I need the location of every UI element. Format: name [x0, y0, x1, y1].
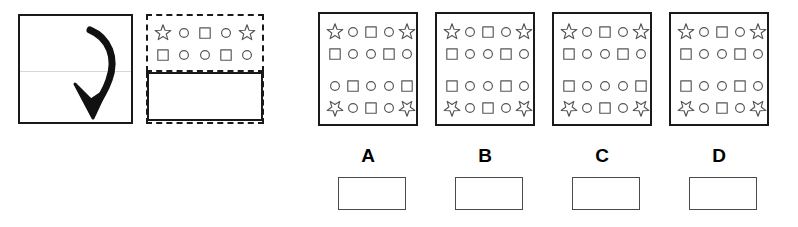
- shape-row: [677, 98, 761, 118]
- circle-icon: [362, 44, 380, 64]
- circle-icon: [175, 23, 193, 43]
- folded-sheet-panel: [146, 14, 264, 124]
- circle-icon: [344, 22, 362, 42]
- shape-row: [560, 22, 644, 42]
- circle-icon: [749, 44, 767, 64]
- square-icon: [713, 22, 731, 42]
- square-icon: [479, 22, 497, 42]
- circle-icon: [461, 22, 479, 42]
- circle-icon: [461, 76, 479, 96]
- star-inverted-icon: [443, 98, 461, 118]
- square-icon: [731, 76, 749, 96]
- circle-icon: [380, 76, 398, 96]
- option-d[interactable]: [669, 12, 769, 126]
- option-b[interactable]: [435, 12, 535, 126]
- star-inverted-icon: [515, 98, 533, 118]
- circle-icon: [713, 76, 731, 96]
- shape-row: [677, 22, 761, 42]
- square-icon: [497, 44, 515, 64]
- square-icon: [632, 76, 650, 96]
- circle-icon: [344, 44, 362, 64]
- circle-icon: [578, 76, 596, 96]
- star-icon: [749, 22, 767, 42]
- shape-row: [326, 76, 410, 96]
- circle-icon: [479, 76, 497, 96]
- fold-crease-line: [20, 71, 131, 72]
- circle-icon: [731, 22, 749, 42]
- star-icon: [154, 23, 172, 43]
- square-icon: [344, 76, 362, 96]
- circle-icon: [695, 76, 713, 96]
- circle-icon: [614, 98, 632, 118]
- star-inverted-icon: [677, 98, 695, 118]
- option-label-a: A: [318, 146, 418, 165]
- circle-icon: [362, 76, 380, 96]
- square-icon: [677, 76, 695, 96]
- square-icon: [326, 44, 344, 64]
- circle-icon: [695, 22, 713, 42]
- square-icon: [380, 44, 398, 64]
- square-icon: [362, 98, 380, 118]
- circle-icon: [596, 76, 614, 96]
- answer-box-a[interactable]: [338, 177, 406, 210]
- answer-box-b[interactable]: [455, 177, 523, 210]
- star-inverted-icon: [632, 98, 650, 118]
- shape-row: [326, 44, 410, 64]
- folded-sheet-top-half: [146, 14, 264, 72]
- star-icon: [677, 22, 695, 42]
- shape-row: [443, 44, 527, 64]
- star-inverted-icon: [326, 98, 344, 118]
- answer-box-c[interactable]: [572, 177, 640, 210]
- star-inverted-icon: [398, 98, 416, 118]
- option-label-d: D: [669, 146, 769, 165]
- square-icon: [713, 98, 731, 118]
- circle-icon: [380, 98, 398, 118]
- shape-row: [560, 98, 644, 118]
- star-icon: [238, 23, 256, 43]
- square-icon: [560, 44, 578, 64]
- circle-icon: [398, 44, 416, 64]
- square-icon: [479, 98, 497, 118]
- circle-icon: [196, 45, 214, 65]
- square-icon: [362, 22, 380, 42]
- square-icon: [596, 22, 614, 42]
- shape-row: [677, 44, 761, 64]
- circle-icon: [326, 76, 344, 96]
- circle-icon: [497, 98, 515, 118]
- circle-icon: [695, 98, 713, 118]
- circle-icon: [695, 44, 713, 64]
- circle-icon: [578, 44, 596, 64]
- option-label-c: C: [552, 146, 652, 165]
- circle-icon: [731, 98, 749, 118]
- star-icon: [632, 22, 650, 42]
- shape-row: [443, 22, 527, 42]
- star-icon: [326, 22, 344, 42]
- circle-icon: [175, 45, 193, 65]
- circle-icon: [578, 98, 596, 118]
- answer-box-d[interactable]: [689, 177, 757, 210]
- circle-icon: [632, 44, 650, 64]
- circle-icon: [217, 23, 235, 43]
- option-c[interactable]: [552, 12, 652, 126]
- square-icon: [731, 44, 749, 64]
- shape-row: [560, 44, 644, 64]
- option-label-b: B: [435, 146, 535, 165]
- square-icon: [196, 23, 214, 43]
- circle-icon: [749, 76, 767, 96]
- folded-sheet-bottom-half: [147, 72, 263, 121]
- circle-icon: [614, 22, 632, 42]
- fold-arrow-icon: [62, 22, 132, 126]
- circle-icon: [461, 98, 479, 118]
- circle-icon: [713, 44, 731, 64]
- square-icon: [497, 76, 515, 96]
- circle-icon: [380, 22, 398, 42]
- square-icon: [596, 98, 614, 118]
- circle-icon: [596, 44, 614, 64]
- star-inverted-icon: [560, 98, 578, 118]
- circle-icon: [578, 22, 596, 42]
- circle-icon: [479, 44, 497, 64]
- option-a[interactable]: [318, 12, 418, 126]
- star-icon: [560, 22, 578, 42]
- circle-icon: [238, 45, 256, 65]
- star-inverted-icon: [749, 98, 767, 118]
